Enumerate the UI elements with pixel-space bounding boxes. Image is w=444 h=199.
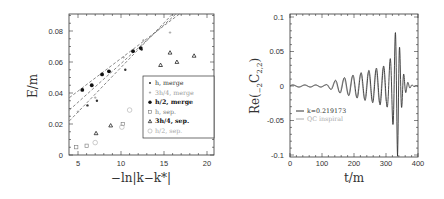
left-legend: h, merge3h/4, mergeh/2, mergeh, sep.3h/4… xyxy=(143,76,214,138)
legend-label: 3h/4, merge xyxy=(155,89,194,97)
data-point xyxy=(75,146,78,149)
right-y-tick-labels: 0.10.050-0.05-0.1 xyxy=(267,13,284,160)
x-tick-label: 20 xyxy=(203,159,211,168)
legend-marker-icon xyxy=(149,82,151,84)
right-y-axis-label: Re(−2C2,2) xyxy=(248,58,264,114)
data-point xyxy=(175,60,179,63)
figure: 00.020.040.060.08 5101520 E/m −ln|k−k*| … xyxy=(0,0,444,199)
y-tick-label: -0.1 xyxy=(271,151,284,160)
data-point xyxy=(90,83,94,87)
left-plot: 00.020.040.060.08 5101520 E/m −ln|k−k*| … xyxy=(26,14,214,185)
legend-marker-icon xyxy=(148,100,151,103)
data-point xyxy=(85,144,88,147)
data-point xyxy=(169,31,172,34)
data-point xyxy=(109,124,113,127)
x-tick-label: 400 xyxy=(412,159,425,168)
x-tick-label: 15 xyxy=(160,159,168,168)
y-tick-label: 0 xyxy=(59,151,63,160)
legend-label-waveform: k=0.219173 xyxy=(307,107,346,114)
waveform-curve xyxy=(290,33,418,157)
data-point xyxy=(192,54,196,57)
right-plot: 0.10.050-0.05-0.1 0100200300400 Re(−2C2,… xyxy=(248,13,424,186)
left-x-axis-label: −ln|k−k*| xyxy=(111,171,171,185)
x-tick-label: 0 xyxy=(288,159,292,168)
data-point xyxy=(131,49,135,53)
y-tick-label: 0 xyxy=(280,82,284,91)
y-tick-label: 0.06 xyxy=(48,58,63,67)
data-point xyxy=(142,39,145,42)
x-tick-label: 300 xyxy=(380,159,393,168)
x-tick-label: 10 xyxy=(117,159,125,168)
data-point xyxy=(139,46,143,50)
x-tick-label: 100 xyxy=(316,159,329,168)
data-point xyxy=(94,131,98,134)
y-tick-label: 0.05 xyxy=(269,47,284,56)
data-point xyxy=(86,104,88,106)
legend-label: h, merge xyxy=(155,79,184,87)
right-x-axis-label: t/m xyxy=(344,171,365,185)
legend-label: h, sep. xyxy=(155,108,176,116)
data-point xyxy=(122,56,125,59)
data-point xyxy=(100,73,104,77)
legend-label-qc: QC inspiral xyxy=(307,115,343,123)
y-tick-label: 0.04 xyxy=(48,89,63,98)
y-tick-label: 0.08 xyxy=(48,27,63,36)
left-y-axis-label: E/m xyxy=(26,73,40,98)
data-point xyxy=(94,96,97,99)
data-point xyxy=(159,63,163,66)
left-x-tick-labels: 5101520 xyxy=(76,159,211,168)
data-point xyxy=(127,108,132,113)
right-legend: k=0.219173 QC inspiral xyxy=(296,107,346,123)
data-point xyxy=(124,69,126,71)
y-tick-label: 0.1 xyxy=(274,13,284,22)
data-point xyxy=(80,88,84,92)
y-tick-label: -0.05 xyxy=(267,116,284,125)
legend-label: 3h/4, sep. xyxy=(155,117,189,125)
x-tick-label: 200 xyxy=(348,159,361,168)
data-point xyxy=(107,69,111,73)
data-point xyxy=(168,51,172,54)
legend-label: h/2, sep. xyxy=(155,127,182,135)
y-tick-label: 0.02 xyxy=(48,120,63,129)
x-tick-label: 5 xyxy=(76,159,80,168)
left-y-tick-labels: 00.020.040.060.08 xyxy=(48,27,63,160)
data-point xyxy=(96,100,98,102)
data-point xyxy=(93,140,98,145)
legend-label: h/2, merge xyxy=(155,98,193,106)
right-x-tick-labels: 0100200300400 xyxy=(288,159,424,168)
